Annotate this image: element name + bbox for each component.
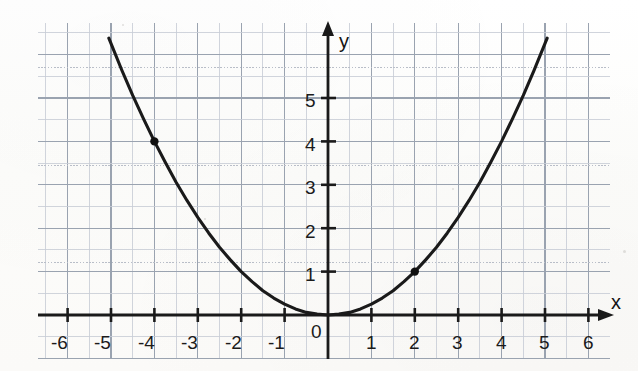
x-tick-label-3: 3	[452, 333, 463, 352]
x-tick-label-5: 5	[539, 333, 550, 352]
y-tick-label-1: 1	[305, 265, 316, 284]
grid-major-lines	[38, 33, 610, 359]
x-tick-label--4: -4	[138, 333, 155, 352]
parabola-plot	[0, 0, 638, 371]
graph-paper-screenshot: -6 -5 -4 -3 -2 -1 1 2 3 4 5 6 0 1 2 3 4 …	[0, 0, 638, 371]
x-tick-label--1: -1	[268, 333, 285, 352]
y-tick-label-3: 3	[305, 178, 316, 197]
x-tick-label-6: 6	[583, 333, 594, 352]
x-tick-label-1: 1	[366, 333, 377, 352]
x-tick-label-4: 4	[496, 333, 507, 352]
scan-speck	[204, 218, 206, 220]
x-tick-label--5: -5	[94, 333, 111, 352]
scan-speck	[623, 250, 626, 253]
origin-label: 0	[311, 322, 322, 341]
coordinate-axes	[38, 21, 614, 359]
x-tick-label--3: -3	[181, 333, 198, 352]
x-tick-label--6: -6	[51, 333, 68, 352]
x-axis-label: x	[611, 292, 621, 312]
y-tick-label-5: 5	[305, 91, 316, 110]
x-tick-label--2: -2	[225, 333, 242, 352]
y-tick-label-2: 2	[305, 222, 316, 241]
y-axis-label: y	[339, 31, 349, 51]
y-tick-label-4: 4	[305, 135, 316, 154]
x-tick-label-2: 2	[409, 333, 420, 352]
scan-speck	[452, 188, 454, 190]
scan-speck	[122, 24, 124, 26]
